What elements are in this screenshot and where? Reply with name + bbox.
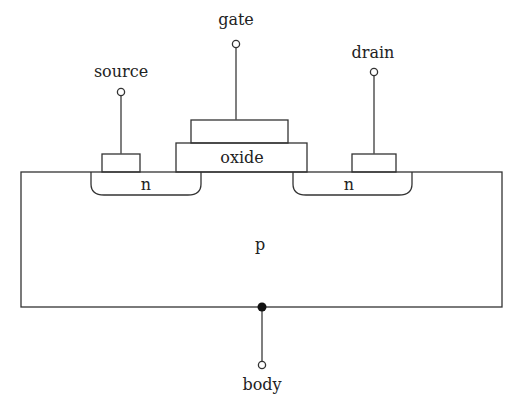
drain-label: drain [352,43,395,62]
body-label: body [242,375,281,394]
gate-label: gate [218,10,254,29]
gate-terminal-icon[interactable] [232,40,239,47]
drain-terminal-icon[interactable] [370,68,377,75]
drain-well-label: n [344,175,354,194]
source-label: source [94,62,148,81]
source-well-label: n [141,175,151,194]
mosfet-diagram: gate source drain body oxide n n p [0,0,524,409]
substrate-label: p [255,235,265,254]
source-terminal-icon[interactable] [117,88,124,95]
body-junction-dot-icon [258,303,267,312]
body-terminal-icon[interactable] [258,361,265,368]
source-contact [102,154,140,172]
gate-electrode [191,120,288,143]
drain-contact [352,154,396,172]
oxide-label: oxide [220,148,263,167]
